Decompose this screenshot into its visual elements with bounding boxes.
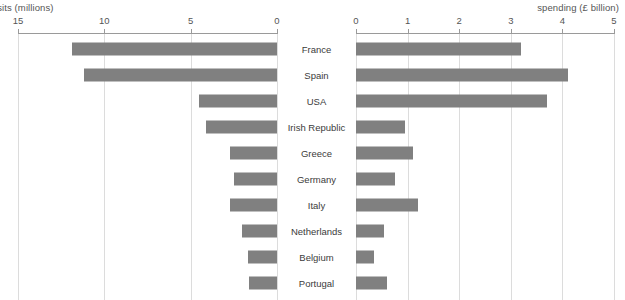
category-label: Netherlands <box>279 226 354 237</box>
chart-row: Italy <box>0 192 625 218</box>
right-axis-caption: spending (£ billion) <box>537 2 619 13</box>
spending-bar <box>356 121 405 134</box>
spending-bar <box>356 43 521 56</box>
right-axis-tick-label: 3 <box>508 15 513 26</box>
chart-row: Belgium <box>0 244 625 270</box>
right-axis-line: 012345 <box>356 33 614 34</box>
chart-row: Portugal <box>0 270 625 296</box>
left-axis-tick-label: 15 <box>13 15 24 26</box>
visits-bar <box>242 225 277 238</box>
visits-bar <box>84 69 277 82</box>
left-axis-line: 151050 <box>18 33 277 34</box>
spending-bar <box>356 225 384 238</box>
category-label: Portugal <box>279 278 354 289</box>
chart-row: Greece <box>0 140 625 166</box>
category-label: France <box>279 44 354 55</box>
category-label: USA <box>279 96 354 107</box>
left-axis-caption: isits (millions) <box>0 2 54 13</box>
category-label: Spain <box>279 70 354 81</box>
spending-bar <box>356 69 568 82</box>
spending-bar <box>356 173 395 186</box>
spending-bar <box>356 147 413 160</box>
left-axis-tick-label: 0 <box>274 15 279 26</box>
right-axis-tick-label: 2 <box>457 15 462 26</box>
visits-bar <box>199 95 277 108</box>
visits-bar <box>230 199 277 212</box>
bidirectional-bar-chart: isits (millions) spending (£ billion) 15… <box>0 0 625 300</box>
chart-row: Spain <box>0 62 625 88</box>
category-label: Germany <box>279 174 354 185</box>
spending-bar <box>356 251 374 264</box>
chart-row: Germany <box>0 166 625 192</box>
visits-bar <box>249 277 277 290</box>
spending-bar <box>356 199 418 212</box>
category-label: Greece <box>279 148 354 159</box>
category-label: Italy <box>279 200 354 211</box>
visits-bar <box>72 43 277 56</box>
visits-bar <box>234 173 277 186</box>
visits-bar <box>248 251 277 264</box>
right-axis-tick-label: 4 <box>560 15 565 26</box>
right-axis-tick-label: 5 <box>611 15 616 26</box>
right-axis-tick-label: 1 <box>405 15 410 26</box>
left-axis-tick-label: 5 <box>188 15 193 26</box>
category-label: Belgium <box>279 252 354 263</box>
chart-row: USA <box>0 88 625 114</box>
chart-row: France <box>0 36 625 62</box>
chart-row: Netherlands <box>0 218 625 244</box>
chart-row: Irish Republic <box>0 114 625 140</box>
left-axis-tick-label: 10 <box>99 15 110 26</box>
category-label: Irish Republic <box>279 122 354 133</box>
spending-bar <box>356 277 387 290</box>
visits-bar <box>206 121 277 134</box>
spending-bar <box>356 95 547 108</box>
visits-bar <box>230 147 277 160</box>
right-axis-tick-label: 0 <box>353 15 358 26</box>
